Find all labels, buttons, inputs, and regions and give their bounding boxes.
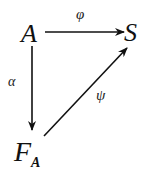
node-F-A: FA: [14, 138, 40, 170]
node-S: S: [124, 20, 137, 46]
node-A: A: [21, 21, 37, 47]
label-alpha: α: [8, 75, 15, 89]
label-psi: ψ: [96, 88, 105, 103]
node-F-subscript: A: [31, 155, 40, 170]
node-F-label: F: [14, 136, 31, 167]
label-phi: φ: [76, 7, 84, 22]
arrow-psi: [44, 48, 127, 136]
